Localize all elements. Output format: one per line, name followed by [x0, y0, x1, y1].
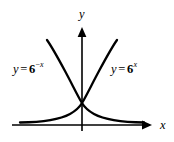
exponential-functions-figure: y=6−x y=6x y x — [0, 0, 174, 142]
curve-right-label-y: y — [111, 62, 117, 76]
curve-left-label-y: y — [13, 62, 19, 76]
curve-right-exponent-variable: x — [133, 60, 137, 69]
curve-left-exponent-variable: x — [40, 60, 44, 69]
curve-right-label-equals: = — [117, 62, 127, 76]
y-axis-arrowhead — [78, 27, 87, 37]
curve-left-label-equals: = — [19, 62, 29, 76]
curve-label-exponential-decay: y=6−x — [13, 62, 44, 76]
curve-left-label-exponent: −x — [35, 60, 43, 69]
curve-exponential-decay — [47, 40, 144, 123]
curve-right-label-exponent: x — [133, 60, 137, 69]
x-axis-label: x — [160, 119, 166, 132]
curve-exponential-growth — [20, 40, 117, 123]
curve-label-exponential-growth: y=6x — [111, 62, 137, 76]
y-axis-label: y — [79, 8, 85, 21]
